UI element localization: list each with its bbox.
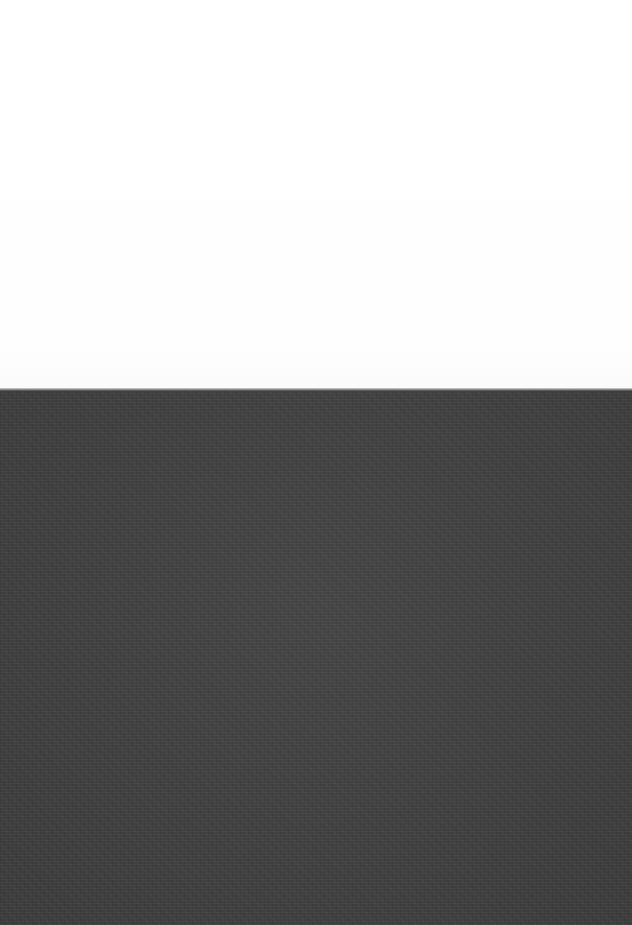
dark-fabric-surface (0, 391, 632, 925)
white-paper (0, 0, 632, 389)
